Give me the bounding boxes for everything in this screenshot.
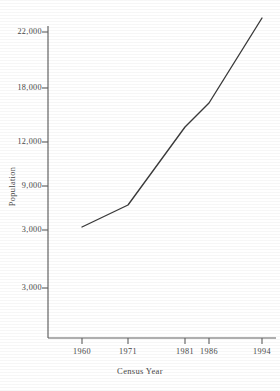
- y-tick-label-9000: 9,000: [22, 182, 42, 190]
- y-axis-title: Population: [8, 147, 17, 227]
- y-tick-label-3000: 3,000: [22, 284, 42, 292]
- y-tick-label-22000: 22,000: [17, 28, 42, 36]
- x-tick-label-1981: 1981: [176, 348, 194, 356]
- x-tick-label-1971: 1971: [119, 348, 137, 356]
- y-tick-label-18000: 18,000: [17, 84, 42, 92]
- x-axis-ticks: [82, 338, 262, 344]
- line-chart: 22,000 18,000 12,000 9,000 3,000 3,000 1…: [0, 0, 280, 391]
- x-tick-label-1986: 1986: [200, 348, 218, 356]
- caption-remnant: [6, 384, 206, 391]
- y-tick-label-6000: 3,000: [22, 226, 42, 234]
- population-data-line: [82, 18, 262, 227]
- x-tick-label-1960: 1960: [73, 348, 91, 356]
- axis-lines: [48, 26, 276, 338]
- x-axis-title: Census Year: [0, 366, 280, 376]
- chart-canvas: [0, 0, 280, 391]
- y-axis-ticks: [42, 32, 48, 288]
- x-tick-label-1994: 1994: [253, 348, 271, 356]
- y-tick-label-12000: 12,000: [17, 138, 42, 146]
